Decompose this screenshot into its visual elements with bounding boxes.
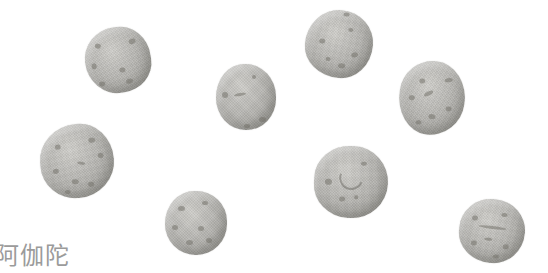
speckle (493, 254, 499, 259)
caption: 阿伽陀 (0, 243, 70, 269)
speckle (478, 224, 506, 230)
pill-1 (81, 23, 156, 98)
speckle (339, 196, 345, 201)
speckle (127, 37, 135, 44)
speckle (428, 113, 436, 119)
speckle (501, 213, 507, 218)
speckle (337, 62, 344, 68)
pill-5 (37, 121, 117, 201)
speckle (77, 160, 85, 164)
speckle (252, 75, 256, 79)
speckle (202, 201, 208, 205)
speckle (409, 94, 416, 100)
speckle (319, 38, 325, 44)
pill-6 (312, 144, 390, 220)
speckle (119, 67, 126, 73)
speckle (71, 178, 78, 184)
speckle (53, 168, 59, 174)
speckle (472, 215, 478, 221)
speckle (325, 57, 330, 61)
speckle (87, 137, 94, 143)
speckle (445, 106, 452, 112)
speckle (186, 240, 193, 245)
speckle (415, 120, 421, 125)
speckle (125, 77, 133, 84)
pill-8 (456, 196, 527, 266)
speckle (54, 144, 60, 150)
speckle (222, 92, 228, 98)
pill-photo: 阿伽陀 (0, 0, 548, 273)
speckle (64, 190, 70, 195)
speckle (198, 226, 204, 231)
speckle (259, 117, 266, 122)
speckle (471, 240, 477, 246)
speckle (99, 81, 105, 86)
speckle (94, 43, 101, 49)
speckle (97, 152, 103, 158)
speckle (244, 124, 250, 128)
speckle (419, 78, 426, 84)
speckle (361, 161, 367, 165)
speckle (484, 237, 492, 241)
pill-7 (165, 191, 227, 255)
pill-2 (302, 7, 376, 81)
speckle (343, 12, 349, 17)
speckle (423, 89, 434, 97)
speckle (444, 78, 452, 83)
speckle (91, 63, 97, 70)
speckle (172, 225, 178, 230)
speckle (178, 206, 185, 211)
speckle (354, 195, 358, 199)
speckle (350, 51, 358, 58)
speckle (503, 244, 509, 250)
speckle (88, 181, 94, 187)
pill-3 (216, 64, 276, 130)
speckle (206, 238, 212, 243)
speckle (234, 91, 246, 96)
pill-4 (394, 57, 470, 139)
speckle (324, 179, 331, 185)
crease-mark (336, 162, 367, 193)
speckle (348, 28, 353, 32)
